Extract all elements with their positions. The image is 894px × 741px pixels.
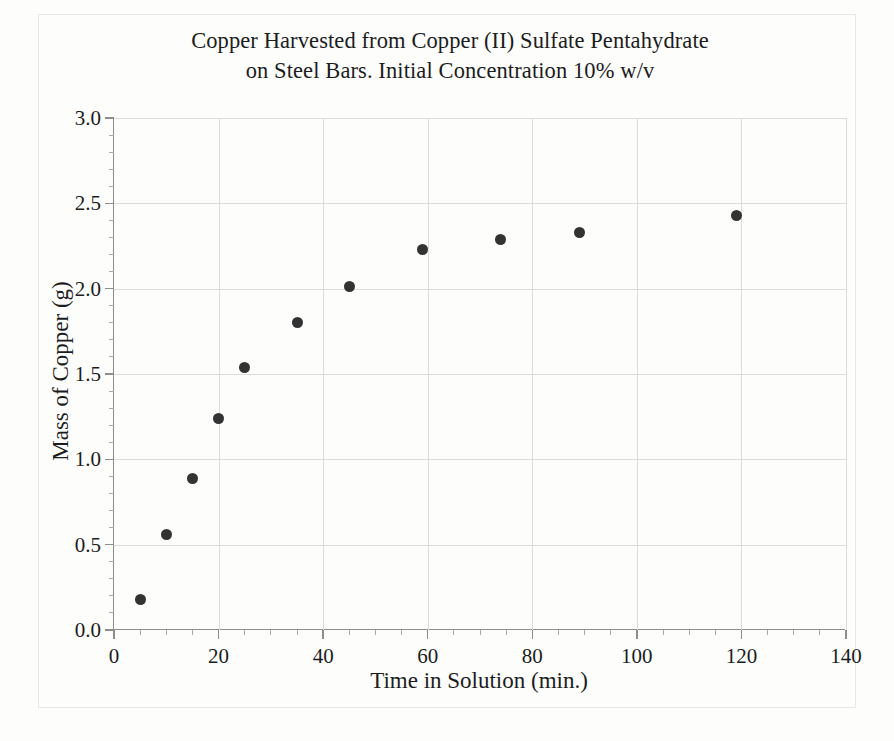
x-tick-minor (689, 630, 690, 635)
y-tick-minor (109, 271, 114, 272)
y-tick-label: 1.0 (75, 447, 101, 472)
data-point (292, 317, 303, 328)
gridline-vertical (428, 118, 429, 630)
y-tick-minor (109, 612, 114, 613)
data-point (213, 413, 224, 424)
x-tick-label: 100 (621, 644, 653, 669)
y-tick-label: 3.0 (75, 106, 101, 131)
y-tick-minor (109, 135, 114, 136)
x-tick-minor (767, 630, 768, 635)
y-tick-minor (109, 339, 114, 340)
x-tick-minor (584, 630, 585, 635)
gridline-vertical (219, 118, 220, 630)
x-tick-label: 60 (417, 644, 438, 669)
gridline-horizontal (114, 289, 846, 290)
x-tick-minor (270, 630, 271, 635)
y-tick-label: 1.5 (75, 362, 101, 387)
x-tick-minor (140, 630, 141, 635)
data-point (239, 362, 250, 373)
x-axis-title: Time in Solution (min.) (113, 668, 845, 694)
x-tick-minor (506, 630, 507, 635)
y-tick-label: 0.0 (75, 618, 101, 643)
gridline-horizontal (114, 459, 846, 460)
gridline-horizontal (114, 374, 846, 375)
x-tick-minor (793, 630, 794, 635)
x-tick-minor (558, 630, 559, 635)
y-tick-label: 2.0 (75, 276, 101, 301)
y-tick-major (105, 203, 114, 204)
y-tick-minor (109, 220, 114, 221)
gridline-vertical (323, 118, 324, 630)
y-tick-minor (109, 578, 114, 579)
y-tick-minor (109, 391, 114, 392)
x-tick-minor (375, 630, 376, 635)
x-tick-major (322, 630, 323, 639)
y-axis-title: Mass of Copper (g) (48, 161, 74, 581)
gridline-horizontal (114, 118, 846, 119)
x-tick-label: 20 (208, 644, 229, 669)
x-tick-minor (192, 630, 193, 635)
y-tick-label: 0.5 (75, 532, 101, 557)
y-tick-minor (109, 442, 114, 443)
x-tick-major (532, 630, 533, 639)
x-tick-minor (349, 630, 350, 635)
x-tick-minor (166, 630, 167, 635)
y-tick-minor (109, 476, 114, 477)
x-tick-major (427, 630, 428, 639)
x-tick-major (218, 630, 219, 639)
data-point (495, 234, 506, 245)
x-tick-minor (819, 630, 820, 635)
data-point (574, 227, 585, 238)
data-point (187, 473, 198, 484)
y-tick-label: 2.5 (75, 191, 101, 216)
y-tick-major (105, 544, 114, 545)
data-point (344, 281, 355, 292)
y-tick-minor (109, 305, 114, 306)
gridline-vertical (532, 118, 533, 630)
y-tick-minor (109, 595, 114, 596)
y-tick-minor (109, 237, 114, 238)
x-tick-minor (401, 630, 402, 635)
gridline-vertical (741, 118, 742, 630)
x-tick-major (636, 630, 637, 639)
gridline-vertical (637, 118, 638, 630)
y-tick-major (105, 459, 114, 460)
y-tick-minor (109, 254, 114, 255)
data-point (417, 244, 428, 255)
x-tick-label: 0 (109, 644, 120, 669)
y-tick-minor (109, 322, 114, 323)
y-tick-minor (109, 527, 114, 528)
gridline-horizontal (114, 545, 846, 546)
x-tick-minor (715, 630, 716, 635)
x-tick-minor (453, 630, 454, 635)
y-tick-minor (109, 510, 114, 511)
plot-area: 0.00.51.01.52.02.53.0020406080100120140 (113, 118, 845, 630)
y-tick-minor (109, 152, 114, 153)
x-tick-minor (297, 630, 298, 635)
y-tick-minor (109, 356, 114, 357)
y-tick-major (105, 117, 114, 118)
y-tick-minor (109, 186, 114, 187)
gridline-horizontal (114, 203, 846, 204)
x-tick-minor (480, 630, 481, 635)
chart-title: Copper Harvested from Copper (II) Sulfat… (70, 26, 830, 86)
data-point (161, 529, 172, 540)
x-tick-major (845, 630, 846, 639)
y-tick-minor (109, 169, 114, 170)
x-tick-label: 80 (522, 644, 543, 669)
gridline-vertical (846, 118, 847, 630)
y-tick-minor (109, 561, 114, 562)
x-tick-major (113, 630, 114, 639)
x-tick-minor (663, 630, 664, 635)
x-tick-label: 40 (313, 644, 334, 669)
x-tick-major (741, 630, 742, 639)
x-tick-label: 140 (830, 644, 862, 669)
y-tick-minor (109, 408, 114, 409)
y-tick-minor (109, 425, 114, 426)
x-tick-minor (244, 630, 245, 635)
chart-figure: Copper Harvested from Copper (II) Sulfat… (0, 0, 894, 741)
data-point (135, 594, 146, 605)
data-point (731, 210, 742, 221)
y-tick-major (105, 373, 114, 374)
y-tick-major (105, 288, 114, 289)
